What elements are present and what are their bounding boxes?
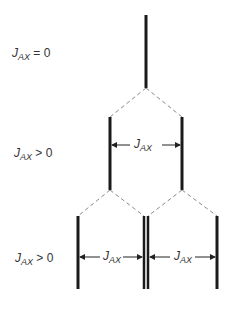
row-label-1: JAX = 0	[12, 46, 50, 64]
dimension-label-level2: JAX	[132, 137, 154, 155]
row-label-2: JAX > 0	[14, 146, 52, 164]
dimension-label-level3-left: JAX	[101, 249, 123, 267]
split-dashes-2	[78, 190, 217, 216]
dimension-label-level3-right: JAX	[172, 249, 194, 267]
split-dashes-1	[110, 88, 182, 117]
row-label-3: JAX > 0	[15, 251, 53, 269]
